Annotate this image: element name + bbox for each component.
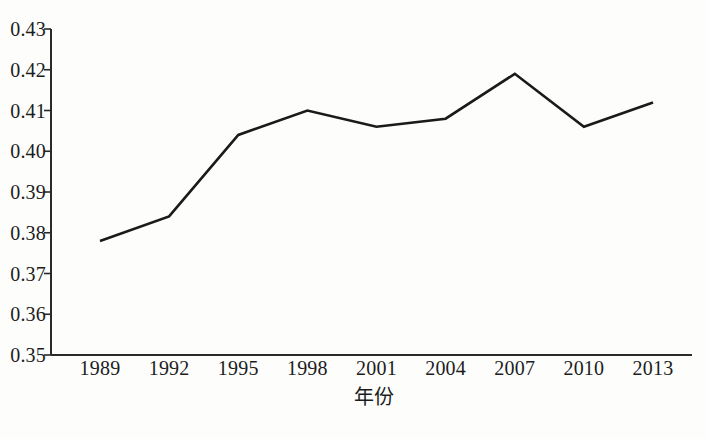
x-axis-tick-label: 2013 xyxy=(613,358,693,378)
x-axis-tick-label: 1989 xyxy=(60,358,140,378)
x-axis-tick-label: 1995 xyxy=(198,358,278,378)
x-axis-tick-label: 2007 xyxy=(475,358,555,378)
x-axis-tick-label: 1998 xyxy=(267,358,347,378)
x-axis-tick-labels: 198919921995199820012004200720102013 xyxy=(0,0,708,439)
x-axis-tick-label: 1992 xyxy=(129,358,209,378)
x-axis-tick-label: 2010 xyxy=(544,358,624,378)
x-axis-tick-label: 2001 xyxy=(337,358,417,378)
chart-figure: 0.350.360.370.380.390.400.410.420.43 198… xyxy=(0,0,708,439)
x-axis-tick-label: 2004 xyxy=(406,358,486,378)
x-axis-title: 年份 xyxy=(0,386,708,408)
